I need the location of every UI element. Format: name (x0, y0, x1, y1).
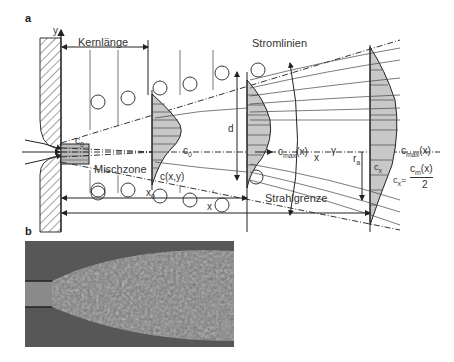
ra-label: ra (353, 154, 360, 166)
wall (40, 30, 61, 232)
gamma-label: γ (331, 146, 336, 156)
c0-inlet-label: c0 (75, 136, 84, 148)
free-jet-diagram (0, 0, 454, 240)
c0-profile-label: c0 (183, 146, 192, 158)
cmax-right-label: cmax(x) (401, 146, 431, 158)
y-axis-label: y (53, 26, 58, 36)
cmax-mid-label: cmax(x) (278, 147, 308, 159)
panel-b-label: b (25, 225, 32, 237)
jet-boundary-label: Strahlgrenze (265, 193, 327, 204)
cx-equation: cx= (393, 176, 406, 187)
x-dimension-label: x (207, 202, 212, 212)
cxy-profile1-label: c(x,y) (160, 172, 184, 182)
cm-fraction-numerator: cm(x) (410, 164, 433, 178)
mixing-zone-label: Mischzone (94, 164, 147, 175)
d-label: d (228, 124, 234, 134)
cm-fraction-denominator: 2 (422, 180, 428, 190)
x0-label: x0 (146, 188, 155, 200)
core-length-label: Kernlänge (78, 37, 128, 48)
cx-inner-label: cx (374, 163, 382, 174)
streamlines-label: Stromlinien (252, 38, 307, 49)
jet-photograph (25, 241, 234, 347)
x-axis-label: x (314, 153, 319, 163)
